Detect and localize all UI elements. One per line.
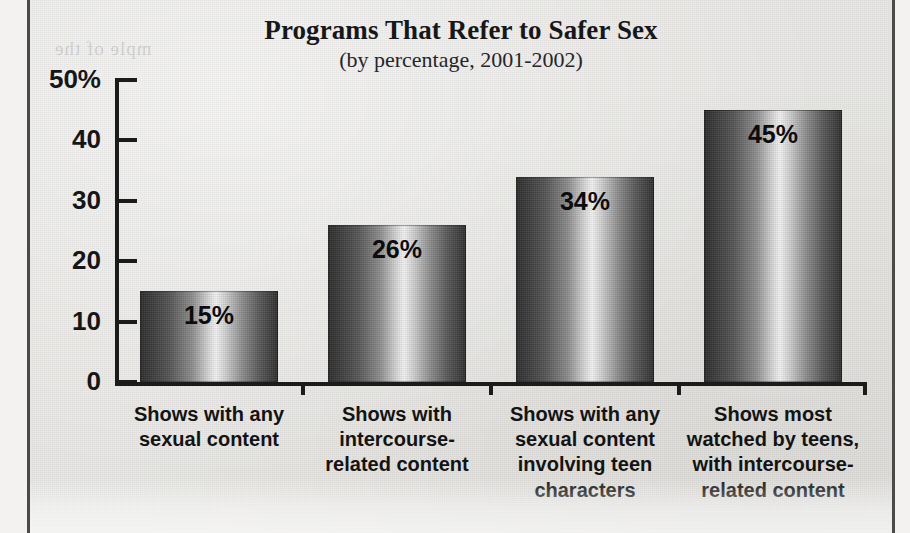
y-tick-50: 50% bbox=[115, 78, 137, 82]
category-label-line: with intercourse- bbox=[679, 452, 867, 477]
y-tick-label-40: 40 bbox=[72, 124, 101, 155]
category-label-line: Shows with any bbox=[491, 402, 679, 427]
x-tick-3 bbox=[677, 382, 681, 395]
category-label-line: Shows most bbox=[679, 402, 867, 427]
category-label-line: sexual content bbox=[491, 427, 679, 452]
chart-subtitle: (by percentage, 2001-2002) bbox=[30, 48, 892, 71]
y-tick-label-30: 30 bbox=[72, 185, 101, 216]
bar-3: 34% bbox=[516, 177, 654, 382]
title-block: Programs That Refer to Safer Sex (by per… bbox=[30, 16, 892, 71]
bar-value-label-2: 26% bbox=[328, 235, 466, 264]
category-label-line: involving teen bbox=[491, 452, 679, 477]
x-tick-end bbox=[863, 382, 867, 395]
category-label-line: sexual content bbox=[115, 427, 303, 452]
page-gutter-left bbox=[0, 0, 27, 533]
y-tick-label-50: 50% bbox=[49, 64, 101, 95]
bar-value-label-3: 34% bbox=[516, 187, 654, 216]
y-tick-40: 40 bbox=[115, 138, 137, 142]
y-axis-line bbox=[115, 80, 119, 382]
chart-scan-page: mple of the Programs That Refer to Safer… bbox=[0, 0, 910, 533]
page-gutter-right bbox=[895, 0, 910, 533]
chart-title: Programs That Refer to Safer Sex bbox=[30, 16, 892, 45]
category-label-line: related content bbox=[303, 452, 491, 477]
category-label-4: Shows mostwatched by teens,with intercou… bbox=[679, 402, 867, 503]
category-label-line: Shows with bbox=[303, 402, 491, 427]
y-tick-10: 10 bbox=[115, 320, 137, 324]
bar-value-label-4: 45% bbox=[704, 120, 842, 149]
category-label-line: related content bbox=[679, 478, 867, 503]
plot-area: 50%403020100 15%26%34%45% Shows with any… bbox=[115, 80, 867, 382]
y-tick-label-10: 10 bbox=[72, 305, 101, 336]
bar-value-label-1: 15% bbox=[140, 301, 278, 330]
bar-4: 45% bbox=[704, 110, 842, 382]
bar-2: 26% bbox=[328, 225, 466, 382]
category-label-1: Shows with anysexual content bbox=[115, 402, 303, 452]
x-tick-1 bbox=[301, 382, 305, 395]
y-tick-label-20: 20 bbox=[72, 245, 101, 276]
y-tick-20: 20 bbox=[115, 259, 137, 263]
y-tick-label-0: 0 bbox=[87, 366, 101, 397]
category-label-line: Shows with any bbox=[115, 402, 303, 427]
bar-1: 15% bbox=[140, 291, 278, 382]
category-label-line: watched by teens, bbox=[679, 427, 867, 452]
y-tick-0: 0 bbox=[115, 380, 137, 384]
frame-rule-left bbox=[27, 0, 30, 533]
x-tick-2 bbox=[489, 382, 493, 395]
category-label-line: characters bbox=[491, 478, 679, 503]
category-label-line: intercourse- bbox=[303, 427, 491, 452]
category-label-3: Shows with anysexual contentinvolving te… bbox=[491, 402, 679, 503]
category-label-2: Shows withintercourse-related content bbox=[303, 402, 491, 478]
y-tick-30: 30 bbox=[115, 199, 137, 203]
frame-rule-right bbox=[892, 0, 895, 533]
